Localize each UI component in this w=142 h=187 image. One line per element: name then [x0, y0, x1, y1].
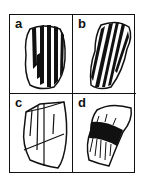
- panel-b: b: [73, 15, 136, 94]
- grain-a-drawing: [10, 15, 73, 94]
- grain-d-drawing: [73, 94, 136, 173]
- panel-d: d: [73, 94, 136, 173]
- grain-c-drawing: [10, 94, 73, 173]
- grain-b-drawing: [73, 15, 136, 94]
- panel-a: a: [10, 15, 73, 94]
- figure-frame: a b c: [9, 14, 135, 173]
- panel-c: c: [10, 94, 73, 173]
